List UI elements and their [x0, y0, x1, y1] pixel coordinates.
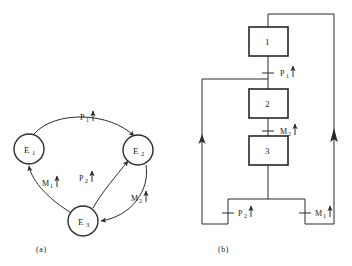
edge-label-p1: P 1	[80, 111, 93, 123]
node-e3-subscript: 3	[86, 221, 89, 228]
edge-e3-e1	[29, 166, 70, 212]
edge-label-p2-text: P	[79, 174, 84, 183]
panel-b-caption: (b)	[218, 245, 229, 254]
edge-e2-e3	[101, 165, 147, 221]
panel-b: 1 2 3 P 1 M 2	[198, 14, 337, 254]
node-e2-label: E	[133, 146, 139, 156]
node-e3[interactable]: E 3	[68, 206, 98, 236]
node-e2-subscript: 2	[141, 150, 144, 157]
transition-label-p2: P 2	[238, 206, 251, 219]
transition-label-p1-subscript: 1	[286, 73, 289, 79]
transition-label-m2-text: M	[280, 127, 287, 136]
edge-label-p2: P 2	[79, 171, 92, 184]
panel-a: E 1 E 2 E 3 P 1 M	[14, 111, 153, 254]
transition-label-m2-subscript: 2	[288, 131, 291, 137]
node-e1-subscript: 1	[32, 149, 35, 156]
panel-a-caption: (a)	[36, 245, 47, 254]
edge-label-m2-text: M	[131, 194, 138, 203]
node-e1[interactable]: E 1	[14, 134, 44, 164]
edge-label-m1-text: M	[42, 179, 49, 188]
transition-label-p2-subscript: 2	[244, 213, 247, 219]
block-3[interactable]: 3	[249, 136, 288, 165]
transition-label-p1: P 1	[280, 66, 293, 79]
edge-label-m1-subscript: 1	[50, 183, 53, 189]
block-3-label: 3	[265, 146, 270, 156]
figure-container: E 1 E 2 E 3 P 1 M	[0, 0, 352, 266]
transition-label-p1-text: P	[280, 69, 285, 78]
figure-canvas: E 1 E 2 E 3 P 1 M	[0, 0, 352, 266]
edge-label-m1: M 1	[42, 176, 57, 189]
transition-label-m1-subscript: 1	[323, 213, 326, 219]
block-1-label: 1	[265, 37, 270, 47]
block-2-label: 2	[265, 99, 270, 109]
edge-e3-e2	[93, 161, 128, 208]
block-1[interactable]: 1	[249, 27, 288, 56]
node-e1-label: E	[24, 145, 30, 155]
edge-label-p1-subscript: 1	[86, 117, 89, 123]
transition-label-m1-text: M	[315, 209, 322, 218]
edge-label-p1-text: P	[80, 113, 85, 122]
edge-label-m2: M 2	[131, 191, 146, 204]
node-e2[interactable]: E 2	[123, 135, 153, 165]
transition-label-p2-text: P	[238, 209, 243, 218]
node-e3-label: E	[78, 217, 84, 227]
block-2[interactable]: 2	[249, 89, 288, 118]
transition-label-m1: M 1	[315, 206, 330, 219]
edge-label-m2-subscript: 2	[139, 198, 142, 204]
transition-label-m2: M 2	[280, 124, 295, 137]
edge-label-p2-subscript: 2	[85, 178, 88, 184]
